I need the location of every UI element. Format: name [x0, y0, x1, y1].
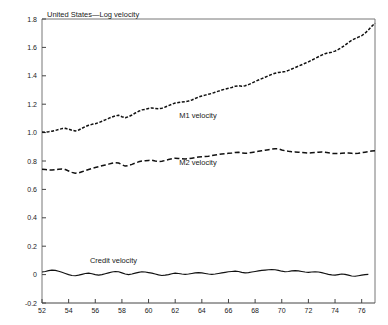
series-label-credit-velocity: Credit velocity — [90, 256, 137, 265]
log-velocity-line-chart: 1.81.61.41.21.00.80.60.40.20-0.2 5254565… — [0, 0, 388, 325]
chart-container: 1.81.61.41.21.00.80.60.40.20-0.2 5254565… — [0, 0, 388, 325]
x-tick-label: 66 — [225, 307, 233, 314]
y-axis-ticks: 1.81.61.41.21.00.80.60.40.20-0.2 — [25, 16, 46, 307]
y-tick-label: 0.8 — [27, 158, 37, 165]
y-tick-label: 1.6 — [27, 44, 37, 51]
y-tick-label: 0 — [33, 271, 37, 278]
x-tick-label: 74 — [331, 307, 339, 314]
x-tick-label: 70 — [278, 307, 286, 314]
x-tick-label: 62 — [171, 307, 179, 314]
y-tick-label: 1.4 — [27, 72, 37, 79]
x-tick-label: 58 — [118, 307, 126, 314]
x-tick-label: 60 — [145, 307, 153, 314]
x-axis-ticks: 52545658606264666870727476 — [38, 299, 375, 314]
series-label-m2-velocity: M2 velocity — [179, 158, 217, 167]
x-tick-label: 68 — [251, 307, 259, 314]
y-tick-label: 1.0 — [27, 129, 37, 136]
x-tick-label: 56 — [91, 307, 99, 314]
y-tick-label: 1.8 — [27, 16, 37, 23]
x-tick-label: 64 — [198, 307, 206, 314]
y-tick-label: 1.2 — [27, 101, 37, 108]
x-tick-label: 54 — [65, 307, 73, 314]
x-tick-label: 76 — [358, 307, 366, 314]
series-annotation-group: M1 velocityM2 velocityCredit velocity — [90, 111, 217, 265]
y-tick-label: 0.6 — [27, 186, 37, 193]
series-line-credit-velocity — [42, 269, 368, 276]
y-tick-label: 0.2 — [27, 243, 37, 250]
series-label-m1-velocity: M1 velocity — [179, 111, 217, 120]
chart-title: United States—Log velocity — [47, 10, 139, 19]
x-tick-label: 72 — [305, 307, 313, 314]
x-tick-label: 52 — [38, 307, 46, 314]
data-series-group — [42, 23, 375, 276]
y-tick-label: 0.4 — [27, 214, 37, 221]
y-tick-label: -0.2 — [25, 300, 37, 307]
